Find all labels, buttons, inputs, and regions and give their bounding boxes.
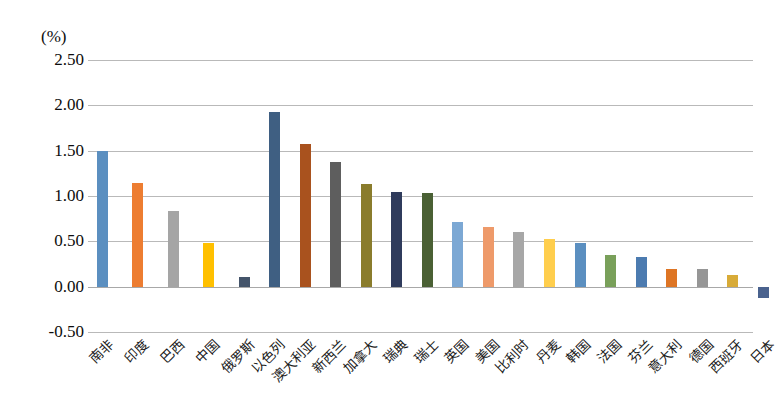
- gridline: [88, 287, 753, 288]
- bar: [300, 144, 311, 286]
- y-axis-tick-label: -0.50: [6, 323, 84, 340]
- x-axis-category-label: 丹麦: [531, 334, 564, 367]
- y-axis-tick-label: 1.00: [6, 187, 84, 204]
- y-axis-tick-label: 0.00: [6, 278, 84, 295]
- bar: [132, 183, 143, 286]
- x-axis-category-label: 日本: [745, 334, 778, 367]
- x-axis-category-label: 瑞典: [378, 334, 411, 367]
- bar: [330, 162, 341, 286]
- bar: [361, 184, 372, 286]
- bar: [544, 239, 555, 287]
- bar: [97, 151, 108, 287]
- x-axis-category-label: 韩国: [561, 334, 594, 367]
- bar: [269, 112, 280, 287]
- bar: [758, 287, 769, 299]
- x-axis-category-label: 瑞士: [409, 334, 442, 367]
- x-axis-category-label: 加拿大: [338, 334, 381, 377]
- y-axis-tick-label: 0.50: [6, 232, 84, 249]
- bar: [575, 243, 586, 287]
- x-axis-category-label: 南非: [84, 334, 117, 367]
- bar: [483, 227, 494, 287]
- gridline: [88, 151, 753, 152]
- y-axis-unit-label: (%): [41, 27, 66, 47]
- bar: [239, 277, 250, 287]
- bar: [605, 255, 616, 287]
- bar-chart: (%) 2.502.001.501.000.500.00-0.50 南非印度巴西…: [0, 0, 782, 414]
- plot-area: [88, 60, 753, 332]
- gridline: [88, 196, 753, 197]
- bar: [666, 269, 677, 287]
- x-axis-category-label: 巴西: [155, 334, 188, 367]
- bar: [452, 222, 463, 286]
- x-axis-category-label: 英国: [439, 334, 472, 367]
- gridline: [88, 105, 753, 106]
- bar: [168, 211, 179, 286]
- bar: [636, 257, 647, 287]
- bar: [727, 275, 738, 287]
- y-axis-tick-label: 1.50: [6, 142, 84, 159]
- bar: [697, 269, 708, 286]
- x-axis-category-label: 印度: [119, 334, 152, 367]
- y-axis-tick-labels: 2.502.001.501.000.500.00-0.50: [0, 60, 84, 332]
- bar: [391, 192, 402, 286]
- y-axis-tick-label: 2.50: [6, 51, 84, 68]
- gridline: [88, 60, 753, 61]
- x-axis-category-label: 法国: [592, 334, 625, 367]
- bar: [422, 193, 433, 286]
- bar: [513, 232, 524, 286]
- x-axis-category-labels: 南非印度巴西中国俄罗斯以色列澳大利亚新西兰加拿大瑞典瑞士英国美国比利时丹麦韩国法…: [88, 332, 782, 414]
- gridline: [88, 241, 753, 242]
- y-axis-tick-label: 2.00: [6, 96, 84, 113]
- bar: [203, 243, 214, 287]
